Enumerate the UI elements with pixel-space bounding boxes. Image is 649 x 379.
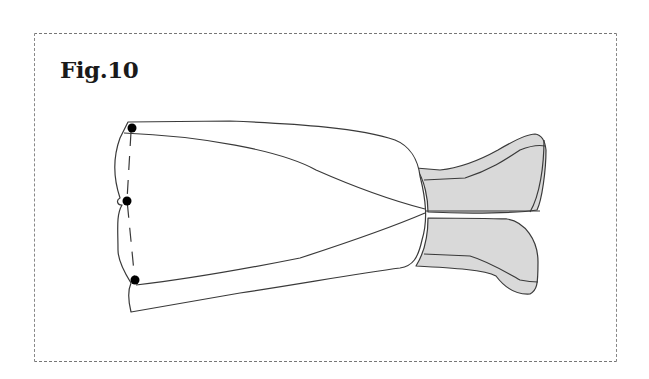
pin-marker-middle [123, 197, 132, 206]
pattern-diagram [0, 0, 649, 379]
pin-marker-bottom [131, 276, 140, 285]
lower-foot-piece [416, 218, 538, 294]
upper-foot-piece [416, 134, 546, 213]
figure-canvas: Fig.10 [0, 0, 649, 379]
pin-marker-top [128, 124, 137, 133]
leg-outline [115, 121, 426, 312]
